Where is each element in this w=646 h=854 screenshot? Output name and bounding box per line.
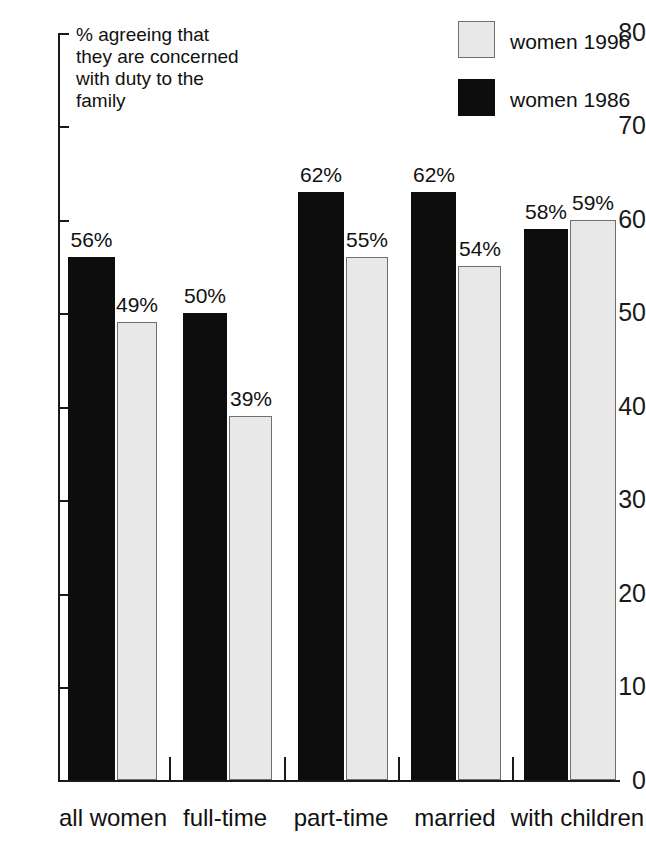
bar-with-children-1986	[524, 229, 568, 780]
bar-full-time-1996	[229, 416, 272, 780]
annotation-line-4: family	[76, 90, 286, 112]
bar-all-women-1996	[117, 322, 157, 780]
bar-value-all-women-1986: 56%	[60, 229, 123, 250]
bar-value-part-time-1996: 55%	[337, 229, 397, 250]
category-label-all-women: all women	[48, 805, 178, 831]
legend-label-women-1996: women 1996	[510, 31, 630, 52]
legend-swatch-women-1996	[458, 21, 495, 58]
y-tick-60	[60, 220, 69, 222]
annotation-line-1: % agreeing that	[76, 24, 286, 46]
bar-value-married-1996: 54%	[450, 238, 510, 259]
bar-value-with-children-1996: 59%	[563, 192, 623, 213]
bar-value-full-time-1986: 50%	[175, 285, 235, 306]
y-label-70: 70	[596, 113, 646, 138]
bar-value-full-time-1996: 39%	[221, 388, 281, 409]
annotation-line-3: with duty to the	[76, 68, 286, 90]
legend-swatch-women-1986	[458, 79, 495, 116]
bar-value-married-1986: 62%	[404, 164, 464, 185]
annotation-line-2: they are concerned	[76, 46, 286, 68]
bar-part-time-1996	[346, 257, 388, 780]
chart-annotation: % agreeing that they are concerned with …	[76, 24, 286, 112]
y-tick-70	[60, 126, 69, 128]
bar-all-women-1986	[68, 257, 115, 780]
bar-married-1996	[458, 266, 501, 780]
bar-with-children-1996	[570, 220, 616, 780]
bar-value-all-women-1996: 49%	[107, 294, 167, 315]
bar-chart: 80 70 60 50 40 30 20 10 0 56% 49% 50% 39…	[0, 0, 646, 854]
category-label-part-time: part-time	[283, 805, 399, 831]
category-label-full-time: full-time	[167, 805, 283, 831]
x-tick-4	[512, 757, 514, 781]
bar-full-time-1986	[183, 313, 227, 780]
bar-part-time-1986	[298, 192, 344, 780]
legend-label-women-1986: women 1986	[510, 89, 630, 110]
bar-married-1986	[411, 192, 456, 780]
category-label-married: married	[399, 805, 511, 831]
category-label-with-children: with children	[505, 805, 646, 831]
bar-value-part-time-1986: 62%	[291, 164, 351, 185]
x-tick-1	[169, 757, 171, 781]
y-tick-80	[60, 33, 69, 35]
x-tick-2	[284, 757, 286, 781]
x-tick-3	[398, 757, 400, 781]
x-axis-line	[58, 780, 620, 782]
